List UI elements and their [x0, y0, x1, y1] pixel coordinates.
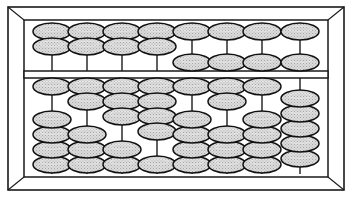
center-beam — [24, 71, 328, 78]
frame-bevel-top-right — [328, 7, 344, 20]
frame-bevel-top-left — [8, 7, 24, 20]
frame-bevel-bottom-right — [328, 177, 344, 190]
frame-bevel-bottom-left — [8, 177, 24, 190]
beam-bar — [24, 71, 328, 78]
beads-layer — [33, 23, 319, 173]
abacus-illustration — [0, 0, 352, 197]
abacus-figure — [0, 0, 352, 197]
